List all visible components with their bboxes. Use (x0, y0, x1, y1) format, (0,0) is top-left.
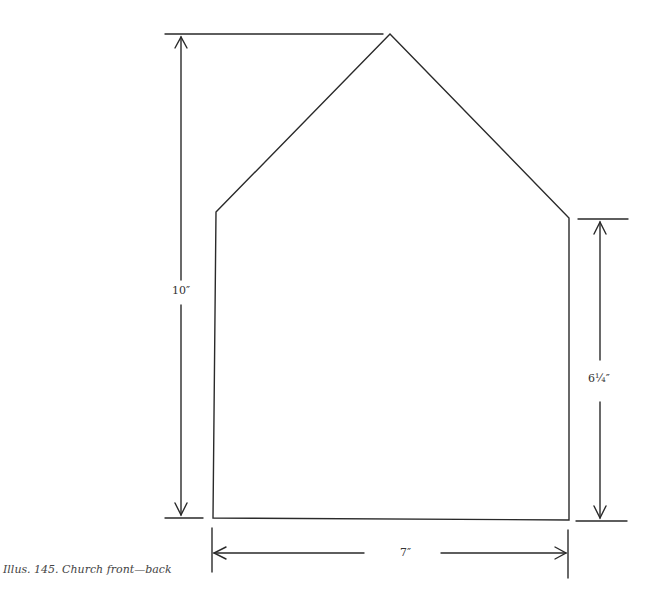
dimension-label-height: 10″ (172, 284, 190, 297)
pattern-diagram (0, 0, 652, 616)
church-outline (213, 34, 569, 520)
dimension-label-wall: 6¼″ (588, 372, 610, 385)
dimension-label-width: 7″ (400, 546, 411, 559)
figure-caption: Illus. 145. Church front—back (3, 563, 172, 576)
